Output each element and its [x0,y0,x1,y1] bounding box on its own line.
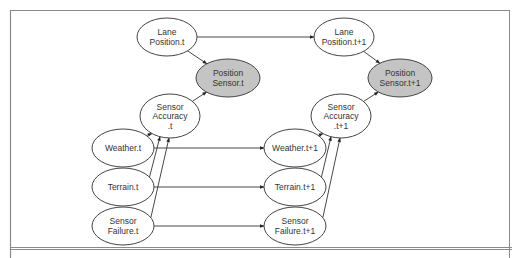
node-acc-t: SensorAccuracy.t [140,94,200,138]
node-label: Sensor [328,102,355,112]
bayesian-network-diagram: LanePosition.tPositionSensor.tSensorAccu… [0,0,518,258]
node-label: Position.t [150,37,186,47]
node-label: Position [213,68,244,78]
node-fail-t1: SensorFailure.t+1 [264,207,326,245]
node-label: .t+1 [334,121,349,131]
node-possensor-t1: PositionSensor.t+1 [368,59,432,97]
node-label: Lane [158,27,177,37]
node-label: Lane [335,27,354,37]
node-label: Sensor.t+1 [380,78,421,88]
node-label: Sensor [157,102,184,112]
edge-acc_t1-to-possensor_t1 [364,92,379,102]
node-label: Sensor.t [212,78,244,88]
edge-weather_t1-to-acc_t1 [318,134,323,136]
node-terrain-t: Terrain.t [92,168,154,206]
node-terrain-t1: Terrain.t+1 [264,168,326,206]
node-label: Position [385,68,416,78]
figure-frame [10,10,512,258]
node-weather-t1: Weather.t+1 [264,129,326,167]
node-label: Weather.t+1 [272,143,318,153]
node-acc-t1: SensorAccuracy.t+1 [311,94,371,138]
node-lane-t1: LanePosition.t+1 [314,18,374,56]
node-label: Weather.t [105,143,142,153]
edge-lane_t1-to-possensor_t1 [364,51,380,63]
node-label: Sensor [282,216,309,226]
edge-lane_t-to-possensor_t [188,51,207,64]
node-label: Accuracy [324,111,360,121]
node-label: Position.t+1 [322,37,367,47]
node-label: Terrain.t+1 [275,182,316,192]
node-possensor-t: PositionSensor.t [196,59,260,97]
node-fail-t: SensorFailure.t [92,207,154,245]
edge-weather_t-to-acc_t [146,134,152,136]
node-label: Failure.t+1 [275,226,316,236]
edge-acc_t-to-possensor_t [192,92,206,101]
node-label: Terrain.t [108,182,139,192]
node-label: Failure.t [108,226,139,236]
node-label: Sensor [110,216,137,226]
node-label: Accuracy [153,111,189,121]
node-weather-t: Weather.t [92,129,154,167]
node-label: .t [168,121,173,131]
node-lane-t: LanePosition.t [137,18,197,56]
nodes-layer: LanePosition.tPositionSensor.tSensorAccu… [92,18,432,245]
